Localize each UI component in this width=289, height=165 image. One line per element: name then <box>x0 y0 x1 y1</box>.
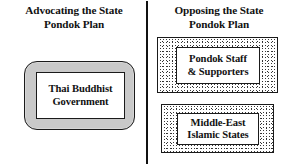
heading-advocating-line1: Advocating the State <box>25 4 122 16</box>
node-pondok-staff-supporters-label-line1: Pondok Staff <box>189 53 247 64</box>
column-advocating: Advocating the State Pondok Plan Thai Bu… <box>0 0 148 165</box>
heading-opposing: Opposing the State Pondok Plan <box>149 4 289 31</box>
node-middle-east-islamic-states-label-line2: Islamic States <box>187 129 248 142</box>
heading-advocating-line2: Pondok Plan <box>0 18 148 32</box>
node-pondok-staff-supporters: Pondok Staff & Supporters <box>157 37 278 93</box>
node-thai-buddhist-government-inner: Thai Buddhist Government <box>36 72 125 119</box>
node-middle-east-islamic-states: Middle-East Islamic States <box>161 104 274 153</box>
comparison-diagram: Advocating the State Pondok Plan Thai Bu… <box>0 0 289 165</box>
node-middle-east-islamic-states-label-line1: Middle-East <box>191 117 246 128</box>
node-pondok-staff-supporters-label-line2: & Supporters <box>188 66 249 79</box>
heading-opposing-line2: Pondok Plan <box>149 18 289 32</box>
node-middle-east-islamic-states-label: Middle-East Islamic States <box>187 117 248 142</box>
node-thai-buddhist-government: Thai Buddhist Government <box>24 61 135 130</box>
node-pondok-staff-supporters-inner: Pondok Staff & Supporters <box>176 47 260 84</box>
column-divider <box>146 1 148 164</box>
heading-opposing-line1: Opposing the State <box>175 4 264 16</box>
node-thai-buddhist-government-label-line1: Thai Buddhist <box>49 83 113 94</box>
node-thai-buddhist-government-label: Thai Buddhist Government <box>49 83 113 108</box>
heading-advocating: Advocating the State Pondok Plan <box>0 4 148 31</box>
column-opposing: Opposing the State Pondok Plan Pondok St… <box>149 0 289 165</box>
node-thai-buddhist-government-label-line2: Government <box>49 96 113 109</box>
node-middle-east-islamic-states-inner: Middle-East Islamic States <box>177 113 259 145</box>
node-pondok-staff-supporters-label: Pondok Staff & Supporters <box>188 53 249 78</box>
